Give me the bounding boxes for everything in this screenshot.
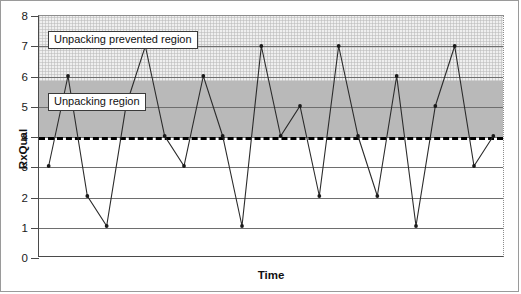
- data-point: [279, 134, 283, 138]
- y-tick-2: [31, 198, 39, 199]
- chart-figure: RxQual 012345678 Unpacking prevented reg…: [0, 0, 519, 292]
- y-tick-label-1: 1: [22, 222, 28, 234]
- y-tick-label-8: 8: [22, 10, 28, 22]
- data-point: [414, 224, 418, 228]
- y-tick-8: [31, 16, 39, 17]
- y-tick-1: [31, 228, 39, 229]
- data-point: [375, 194, 379, 198]
- data-point: [85, 194, 89, 198]
- y-tick-label-5: 5: [22, 101, 28, 113]
- data-point: [395, 74, 399, 78]
- data-point: [201, 74, 205, 78]
- data-point: [182, 164, 186, 168]
- series-markers: [47, 44, 495, 228]
- data-point: [453, 44, 457, 48]
- y-tick-label-4: 4: [22, 131, 28, 143]
- data-point: [240, 224, 244, 228]
- data-series-rxqual: [39, 16, 503, 256]
- y-tick-label-0: 0: [22, 252, 28, 264]
- data-point: [221, 134, 225, 138]
- data-point: [163, 134, 167, 138]
- region-label-unpacking: Unpacking region: [48, 93, 146, 111]
- y-tick-7: [31, 46, 39, 47]
- plot-area: 012345678 Unpacking prevented region Unp…: [38, 15, 504, 257]
- series-line: [49, 46, 494, 226]
- y-tick-label-7: 7: [22, 40, 28, 52]
- y-tick-3: [31, 167, 39, 168]
- x-axis-title: Time: [38, 269, 504, 281]
- y-tick-4: [31, 137, 39, 138]
- y-tick-label-3: 3: [22, 161, 28, 173]
- y-tick-6: [31, 77, 39, 78]
- data-point: [298, 104, 302, 108]
- data-point: [472, 164, 476, 168]
- region-label-unpacking-prevented: Unpacking prevented region: [48, 31, 198, 49]
- data-point: [337, 44, 341, 48]
- y-tick-0: [31, 258, 39, 259]
- y-tick-label-6: 6: [22, 71, 28, 83]
- data-point: [356, 134, 360, 138]
- data-point: [491, 134, 495, 138]
- y-tick-label-2: 2: [22, 192, 28, 204]
- data-point: [105, 224, 109, 228]
- data-point: [433, 104, 437, 108]
- data-point: [317, 194, 321, 198]
- data-point: [66, 74, 70, 78]
- data-point: [47, 164, 51, 168]
- data-point: [259, 44, 263, 48]
- y-tick-5: [31, 107, 39, 108]
